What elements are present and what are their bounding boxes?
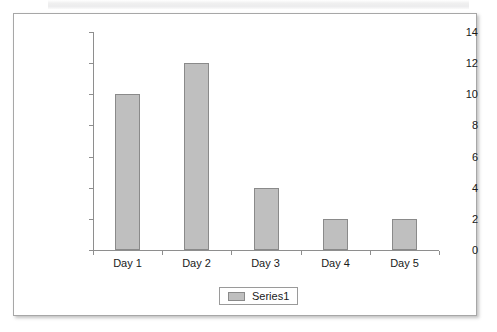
y-axis-tick: [89, 94, 93, 95]
chart-legend: Series1: [219, 287, 298, 305]
scan-artifact-band: [48, 0, 469, 9]
y-axis-tick-label: 2: [412, 214, 478, 225]
chart-figure-panel: 02468101214 Day 1Day 2Day 3Day 4Day 5 Se…: [13, 13, 477, 316]
y-axis-tick-label: 4: [412, 183, 478, 194]
y-axis-tick: [89, 157, 93, 158]
x-axis-tick: [231, 251, 232, 255]
x-axis-tick-label: Day 2: [162, 257, 231, 269]
y-axis-tick: [89, 188, 93, 189]
y-axis-tick: [89, 32, 93, 33]
x-axis-tick-label: Day 3: [231, 257, 300, 269]
x-axis-tick: [93, 251, 94, 255]
x-axis-tick: [370, 251, 371, 255]
x-axis-tick: [439, 251, 440, 255]
bar-day-3: [254, 188, 279, 250]
plot-area: 02468101214 Day 1Day 2Day 3Day 4Day 5 Se…: [14, 14, 478, 317]
y-axis-tick: [89, 125, 93, 126]
y-axis-tick-label: 0: [412, 245, 478, 256]
x-axis-tick-label: Day 4: [301, 257, 370, 269]
y-axis-tick-label: 8: [412, 120, 478, 131]
x-axis-tick: [162, 251, 163, 255]
y-axis-line: [93, 32, 94, 251]
x-axis-tick: [301, 251, 302, 255]
x-axis-line: [93, 250, 439, 251]
y-axis-tick: [89, 63, 93, 64]
bar-day-2: [184, 63, 209, 250]
legend-swatch-series1: [228, 292, 245, 301]
x-axis-tick-label: Day 5: [370, 257, 439, 269]
y-axis-tick-label: 14: [412, 27, 478, 38]
x-axis-tick-label: Day 1: [93, 257, 162, 269]
bar-day-4: [323, 219, 348, 250]
y-axis-tick-label: 12: [412, 58, 478, 69]
legend-label-series1: Series1: [252, 291, 289, 302]
bar-day-1: [115, 94, 140, 250]
bar-day-5: [392, 219, 417, 250]
y-axis-tick-label: 6: [412, 152, 478, 163]
y-axis-tick-label: 10: [412, 89, 478, 100]
y-axis-tick: [89, 219, 93, 220]
